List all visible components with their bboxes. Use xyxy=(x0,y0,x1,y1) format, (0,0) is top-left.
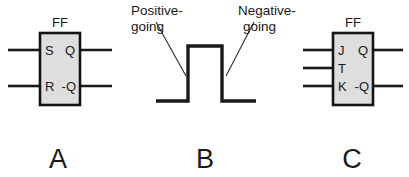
panel-letter-b: B xyxy=(196,144,214,174)
pin-label-s: S xyxy=(45,43,54,58)
pin-label-q-a: Q xyxy=(65,43,75,58)
circuit-diagram-svg: FF S R Q -Q A Positive- going Negative- … xyxy=(0,0,409,177)
pin-label-t: T xyxy=(338,61,346,76)
block-label-ff-c: FF xyxy=(345,15,361,30)
pin-label-q-c: Q xyxy=(358,43,368,58)
callout-positive-going-line1: Positive- xyxy=(131,3,183,18)
block-label-ff-a: FF xyxy=(52,15,68,30)
pin-label-k: K xyxy=(338,79,347,94)
panel-b-waveform: Positive- going Negative- going B xyxy=(131,3,296,174)
callout-negative-going-line2: going xyxy=(243,19,276,34)
callout-positive-going-line2: going xyxy=(131,19,164,34)
pin-label-nq-c: -Q xyxy=(355,79,369,94)
pin-label-r: R xyxy=(45,79,54,94)
panel-letter-a: A xyxy=(49,144,67,174)
pulse-waveform-trace xyxy=(156,46,256,101)
callout-negative-going-line1: Negative- xyxy=(238,3,296,18)
figure-canvas: FF S R Q -Q A Positive- going Negative- … xyxy=(0,0,409,177)
pin-label-nq-a: -Q xyxy=(62,79,76,94)
pin-label-j: J xyxy=(338,43,345,58)
panel-letter-c: C xyxy=(342,144,362,174)
panel-a-sr-flip-flop: FF S R Q -Q A xyxy=(8,15,112,174)
panel-c-jk-flip-flop: FF J T K Q -Q C xyxy=(303,15,403,174)
